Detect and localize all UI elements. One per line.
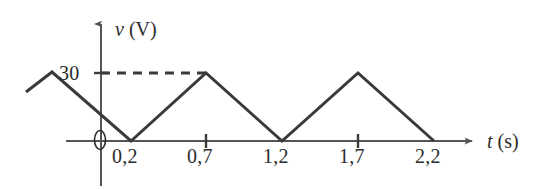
waveform-trace [26,72,434,141]
y-axis-title: v (V) [115,18,157,41]
x-tick-label-0-2: 0,2 [112,145,138,168]
x-tick-label-2-2: 2,2 [415,145,441,168]
x-tick-label-0-7: 0,7 [187,145,213,168]
x-tick-label-1-7: 1,7 [339,145,365,168]
x-axis-unit: (s) [498,130,519,152]
x-tick-label-1-2: 1,2 [263,145,289,168]
x-axis-title: t (s) [487,130,519,153]
y-axis-variable: v [115,18,124,40]
waveform-figure: v (V) t (s) 30 0,2 0,7 1,2 1,7 2,2 [0,0,545,190]
y-axis-unit: (V) [129,18,157,40]
y-tick-label-30: 30 [59,62,79,85]
